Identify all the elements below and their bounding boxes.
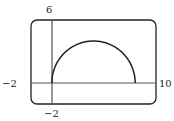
semicircle-curve	[52, 41, 135, 83]
graph-window	[0, 0, 174, 121]
ymin-label: −2	[44, 109, 59, 119]
xmax-label: 10	[159, 79, 172, 89]
ymax-label: 6	[46, 5, 52, 15]
xmin-label: −2	[2, 79, 17, 89]
viewing-window-frame	[31, 20, 156, 104]
